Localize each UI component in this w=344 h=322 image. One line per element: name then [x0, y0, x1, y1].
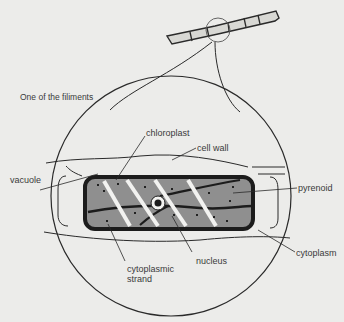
label-chloroplast: chloroplast — [146, 128, 190, 138]
label-cell-wall: cell wall — [197, 143, 229, 153]
filament-illustration — [167, 11, 279, 44]
label-cytoplasmic-strand-line1: cytoplasmic — [127, 264, 174, 274]
diagram-title: One of the filiments — [20, 92, 93, 102]
label-cytoplasmic-strand-line2: strand — [127, 274, 152, 284]
label-cytoplasm: cytoplasm — [296, 248, 337, 258]
label-nucleus: nucleus — [196, 256, 227, 266]
label-vacuole: vacuole — [10, 175, 41, 185]
label-pyrenoid: pyrenoid — [298, 183, 333, 193]
